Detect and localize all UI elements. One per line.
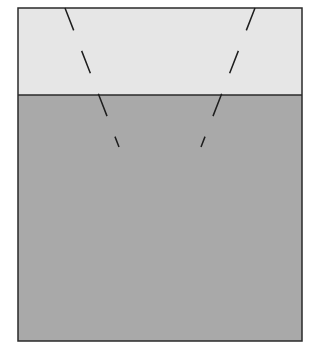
- lower-region: [18, 95, 302, 341]
- upper-region: [18, 8, 302, 95]
- diagram-canvas: [0, 0, 319, 360]
